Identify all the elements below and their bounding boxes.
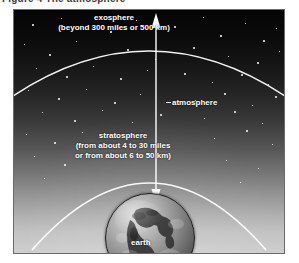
atmosphere-label: atmosphere	[172, 98, 217, 108]
exosphere-label-line1: exosphere	[14, 13, 214, 23]
stratosphere-label: stratosphere (from about 4 to 30 miles o…	[38, 131, 208, 161]
stratosphere-label-line3: or from about 6 to 50 km)	[38, 151, 208, 161]
stratosphere-label-line2: (from about 4 to 30 miles	[38, 141, 208, 151]
earth-label: earth	[131, 238, 151, 248]
atmosphere-diagram-figure: exosphere (beyond 300 miles or 500 km) s…	[13, 9, 285, 254]
globe-highlight	[115, 200, 163, 237]
atmosphere-label-tick	[166, 102, 171, 103]
exosphere-label: exosphere (beyond 300 miles or 500 km)	[14, 13, 214, 33]
exosphere-label-line2: (beyond 300 miles or 500 km)	[14, 23, 214, 33]
stratosphere-label-line1: stratosphere	[38, 131, 208, 141]
figure-caption: Figure 4 The atmosphere	[0, 0, 299, 5]
